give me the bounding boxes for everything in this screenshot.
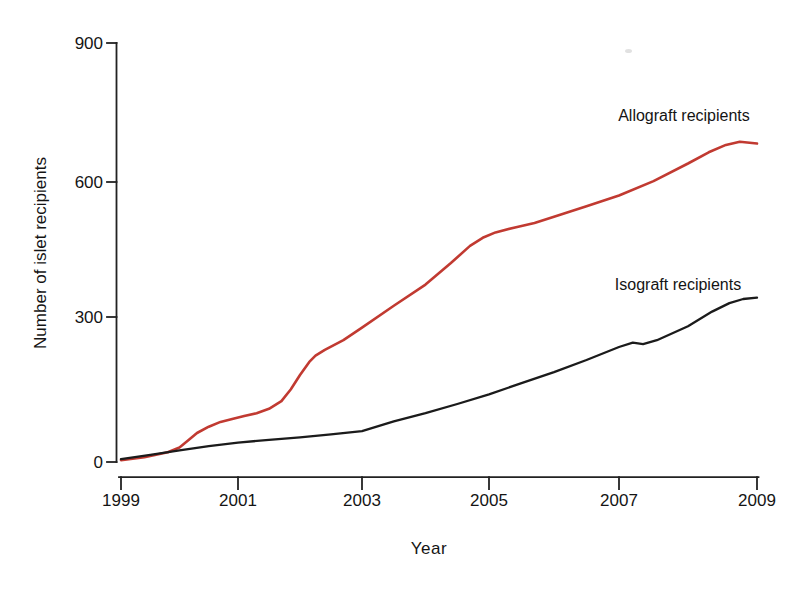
x-axis-title: Year: [411, 539, 447, 559]
y-tick-label-0: 0: [30, 453, 103, 473]
x-tick-label-2001: 2001: [203, 491, 273, 511]
x-tick-label-2007: 2007: [584, 491, 654, 511]
scan-artifact-speck: [625, 49, 632, 53]
y-tick-label-600: 600: [30, 173, 103, 193]
series-label-allograft: Allograft recipients: [618, 107, 750, 125]
y-tick-label-300: 300: [30, 308, 103, 328]
x-tick-label-2003: 2003: [327, 491, 397, 511]
series-label-isograft: Isograft recipients: [615, 276, 741, 294]
islet-recipients-chart: Number of islet recipients Year Allograf…: [0, 0, 801, 592]
x-tick-label-2009: 2009: [722, 491, 792, 511]
series-line-isograft: [121, 298, 757, 460]
x-tick-label-1999: 1999: [86, 491, 156, 511]
x-tick-label-2005: 2005: [454, 491, 524, 511]
series-line-allograft: [121, 142, 757, 460]
y-tick-label-900: 900: [30, 34, 103, 54]
